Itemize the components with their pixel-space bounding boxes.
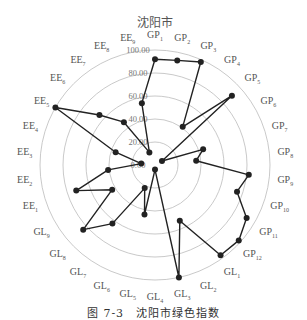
axis-label-gl5: GL5 [120,288,136,301]
data-point-gl7 [109,221,115,227]
axis-label-gp12: GP12 [243,248,262,261]
ring-labels: 0.0020.0040.0060.0080.00100.00 [126,45,149,170]
data-point-gl8 [80,227,86,233]
axis-label-ee6: EE6 [50,72,65,85]
axis-label-ee5: EE5 [34,95,49,108]
axis-label-gl1: GL1 [224,266,240,279]
ring-label: 80.00 [128,68,147,78]
grid-ring [63,73,247,257]
axis-label-gp1: GP1 [147,29,163,42]
data-point-ee1 [73,188,79,194]
axis-label-gp4: GP4 [224,54,240,67]
data-point-gp5 [229,93,235,99]
axis-label-ee2: EE2 [17,174,32,187]
data-point-gl2 [177,218,183,224]
data-point-gp9 [246,172,252,178]
axis-label-ee1: EE1 [23,200,38,213]
data-point-ee4 [113,149,119,155]
figure-caption: 图 7-3 沈阳市绿色指数 [0,304,307,320]
data-point-gp10 [234,189,240,195]
axis-label-ee3: EE3 [17,146,32,159]
axis-label-ee7: EE7 [70,54,85,67]
axis-label-gl3: GL3 [174,288,190,301]
axis-label-gl4: GL4 [147,291,163,304]
grid-ring [109,119,201,211]
axis-label-gl2: GL2 [200,280,216,293]
data-point-ee3 [138,161,144,167]
data-point-ee9 [139,100,145,106]
data-point-gp6 [159,158,165,164]
data-point-ee2 [105,167,111,173]
data-point-ee6 [96,112,102,118]
data-point-gl6 [142,185,148,191]
data-point-gl4 [152,167,158,173]
axis-label-gp9: GP9 [277,174,293,187]
axis-label-gp8: GP8 [277,146,293,159]
axis-label-gp11: GP11 [259,226,278,239]
data-point-gl1 [218,252,224,258]
axis-label-gl8: GL8 [49,248,65,261]
data-point-gl9 [109,187,115,193]
axis-label-gl9: GL9 [33,226,49,239]
axis-label-ee4: EE4 [23,120,38,133]
axis-label-gp2: GP2 [174,32,190,45]
data-point-gp12 [236,237,242,243]
axis-label-gl7: GL7 [70,266,86,279]
axis-label-ee8: EE8 [94,40,109,53]
grid-rings [40,50,270,280]
series-line [55,59,248,277]
data-point-gp4 [180,124,186,130]
axis-label-gl6: GL6 [94,280,110,293]
ring-label: 100.00 [126,45,149,55]
axis-label-gp10: GP10 [270,200,289,213]
axis-label-ee9: EE9 [120,32,135,45]
axis-label-gp7: GP7 [272,120,288,133]
data-point-ee7 [121,119,127,125]
data-point-gl3 [176,274,182,280]
chart-title: 沈阳市 [137,15,173,30]
data-point-gp8 [193,158,199,164]
data-point-ee8 [146,149,152,155]
data-point-gp7 [200,146,206,152]
data-point-gp2 [174,57,180,63]
axis-label-gp5: GP5 [244,72,260,85]
data-series [52,56,251,280]
data-point-ee5 [52,105,58,111]
data-point-gl5 [141,211,147,217]
data-point-gp3 [198,59,204,65]
data-point-gp11 [244,215,250,221]
axis-label-gp3: GP3 [200,40,216,53]
data-point-gp1 [152,56,158,62]
axis-labels: GP1GP2GP3GP4GP5GP6GP7GP8GP9GP10GP11GP12G… [17,29,293,304]
grid-ring [40,50,270,280]
axis-label-gp6: GP6 [261,95,277,108]
